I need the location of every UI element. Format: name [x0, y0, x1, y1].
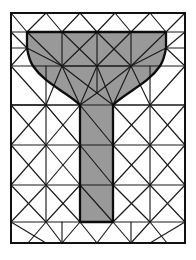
mesh-svg [0, 0, 196, 260]
mesh-figure [0, 0, 196, 260]
